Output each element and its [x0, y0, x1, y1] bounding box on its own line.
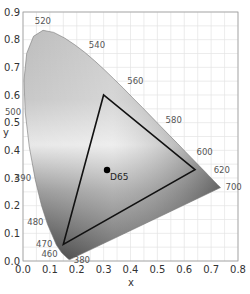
- wavelength-label: 460: [41, 249, 57, 259]
- y-tick-label: 0.8: [4, 34, 20, 45]
- wavelength-label: 490: [15, 173, 31, 183]
- d65-label: D65: [110, 172, 128, 182]
- y-tick-label: 0.4: [4, 145, 20, 156]
- x-tick-label: 0.4: [123, 264, 139, 275]
- x-tick-label: 0.3: [96, 264, 112, 275]
- wavelength-label: 470: [36, 239, 52, 249]
- wavelength-label: 620: [214, 165, 230, 175]
- y-tick-label: 0.0: [4, 256, 20, 267]
- x-tick-label: 0.8: [230, 264, 246, 275]
- x-axis-label: x: [128, 277, 134, 288]
- y-tick-label: 0.1: [4, 228, 20, 239]
- wavelength-label: 480: [27, 217, 43, 227]
- spectral-locus: [24, 30, 221, 259]
- cie-chart: 0.00.10.20.30.40.50.60.70.80.00.10.20.30…: [0, 0, 250, 294]
- y-tick-label: 0.2: [4, 200, 20, 211]
- wavelength-label: 380: [74, 255, 90, 265]
- wavelength-label: 500: [5, 107, 21, 117]
- y-axis-label: y: [3, 127, 9, 138]
- x-tick-label: 0.7: [203, 264, 219, 275]
- wavelength-label: 540: [89, 40, 105, 50]
- wavelength-label: 580: [166, 115, 182, 125]
- y-tick-label: 0.7: [4, 62, 20, 73]
- wavelength-label: 600: [197, 147, 213, 157]
- x-tick-label: 0.1: [42, 264, 58, 275]
- wavelength-label: 520: [35, 16, 51, 26]
- y-tick-label: 0.6: [4, 90, 20, 101]
- x-tick-label: 0.5: [149, 264, 165, 275]
- x-tick-label: 0.6: [176, 264, 192, 275]
- x-tick-label: 0.2: [69, 264, 85, 275]
- y-tick-label: 0.9: [4, 7, 20, 18]
- wavelength-label: 700: [226, 182, 242, 192]
- wavelength-label: 560: [127, 76, 143, 86]
